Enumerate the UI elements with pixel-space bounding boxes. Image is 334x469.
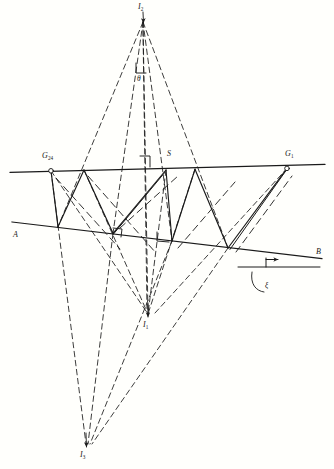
dashed-rays-to-I1 bbox=[51, 168, 287, 314]
label-mirror-left: G24 bbox=[42, 152, 53, 160]
label-baseline-right: B bbox=[316, 248, 321, 256]
dashed-rays-to-I3 bbox=[51, 171, 228, 444]
label-angle-xi: ξ bbox=[265, 282, 268, 290]
label-angle-theta: θ bbox=[137, 75, 141, 83]
wedge-angle-xi bbox=[238, 258, 320, 292]
upper-mirror-line bbox=[10, 164, 325, 172]
diagram-canvas bbox=[0, 0, 334, 469]
optics-geometry-figure: A B G24 G1 S I1 I2 I3 θ ξ bbox=[0, 0, 334, 469]
vertical-axis-dashed bbox=[143, 30, 147, 310]
label-image-one: I1 bbox=[143, 321, 148, 329]
label-image-two: I2 bbox=[138, 3, 143, 11]
label-mirror-right: G1 bbox=[285, 150, 293, 158]
zigzag-ray-path bbox=[51, 168, 287, 248]
label-baseline-left: A bbox=[13, 231, 18, 239]
label-source-s: S bbox=[167, 150, 171, 158]
label-image-three: I3 bbox=[80, 451, 85, 459]
